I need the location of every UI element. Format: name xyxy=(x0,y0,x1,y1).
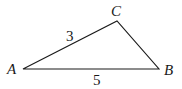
side-label-ab: 5 xyxy=(93,72,101,88)
vertex-label-a: A xyxy=(6,61,17,77)
vertex-label-b: B xyxy=(164,62,173,78)
triangle-diagram: A B C 3 5 xyxy=(0,0,182,89)
side-label-ac: 3 xyxy=(66,28,74,44)
triangle-abc xyxy=(23,21,159,69)
vertex-label-c: C xyxy=(111,3,122,19)
